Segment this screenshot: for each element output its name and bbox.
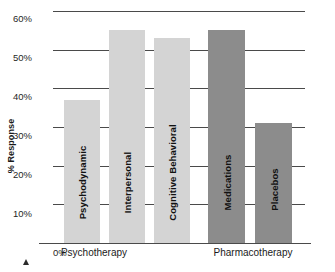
bar-label-interpersonal: Interpersonal	[122, 151, 133, 212]
bar-label-wrap-psychodynamic: Psychodynamic	[64, 127, 100, 237]
y-tick-label-50: 50%	[13, 52, 53, 63]
y-axis-title: % Response	[0, 86, 22, 206]
plot-area: Psychodynamic Interpersonal Cognitive Be…	[53, 11, 305, 243]
gridline-60	[53, 11, 305, 12]
y-axis-title-text: % Response	[6, 119, 16, 174]
bar-label-placebos: Placebos	[268, 168, 279, 211]
bar-interpersonal: Interpersonal	[109, 30, 145, 243]
bar-label-medications: Medications	[221, 154, 232, 210]
bar-label-psychodynamic: Psychodynamic	[77, 145, 88, 219]
bar-cognitive-behavioral: Cognitive Behavioral	[154, 38, 190, 243]
bar-medications: Medications	[208, 30, 245, 243]
y-tick-label-60: 60%	[13, 13, 53, 24]
bar-chart: % Response 60% 50% 40% 30% 20% 10% 0% Ps…	[0, 0, 335, 272]
y-tick-label-20: 20%	[13, 169, 53, 180]
bar-label-wrap-placebos: Placebos	[255, 142, 292, 237]
bar-label-wrap-medications: Medications	[208, 127, 245, 237]
bar-label-wrap-interpersonal: Interpersonal	[109, 127, 145, 237]
y-tick-label-30: 30%	[13, 130, 53, 141]
bar-label-cognitive-behavioral: Cognitive Behavioral	[167, 124, 178, 221]
y-tick-label-40: 40%	[13, 91, 53, 102]
bar-placebos: Placebos	[255, 123, 292, 243]
group-label-psychotherapy: Psychotherapy	[61, 247, 127, 258]
bar-label-wrap-cognitive-behavioral: Cognitive Behavioral	[154, 107, 190, 237]
y-tick-label-10: 10%	[13, 208, 53, 219]
gridline-baseline-0	[39, 243, 311, 244]
bar-psychodynamic: Psychodynamic	[64, 100, 100, 243]
group-label-pharmacotherapy: Pharmacotherapy	[214, 247, 293, 258]
caret-marker-icon	[23, 259, 29, 265]
